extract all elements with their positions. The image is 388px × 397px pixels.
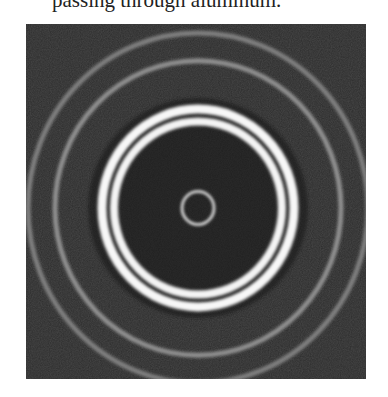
diffraction-rings: [26, 24, 366, 379]
figure-caption: passing through aluminum.: [52, 0, 281, 12]
dark-center-region: [88, 98, 308, 318]
diffraction-pattern-image: [26, 24, 366, 379]
